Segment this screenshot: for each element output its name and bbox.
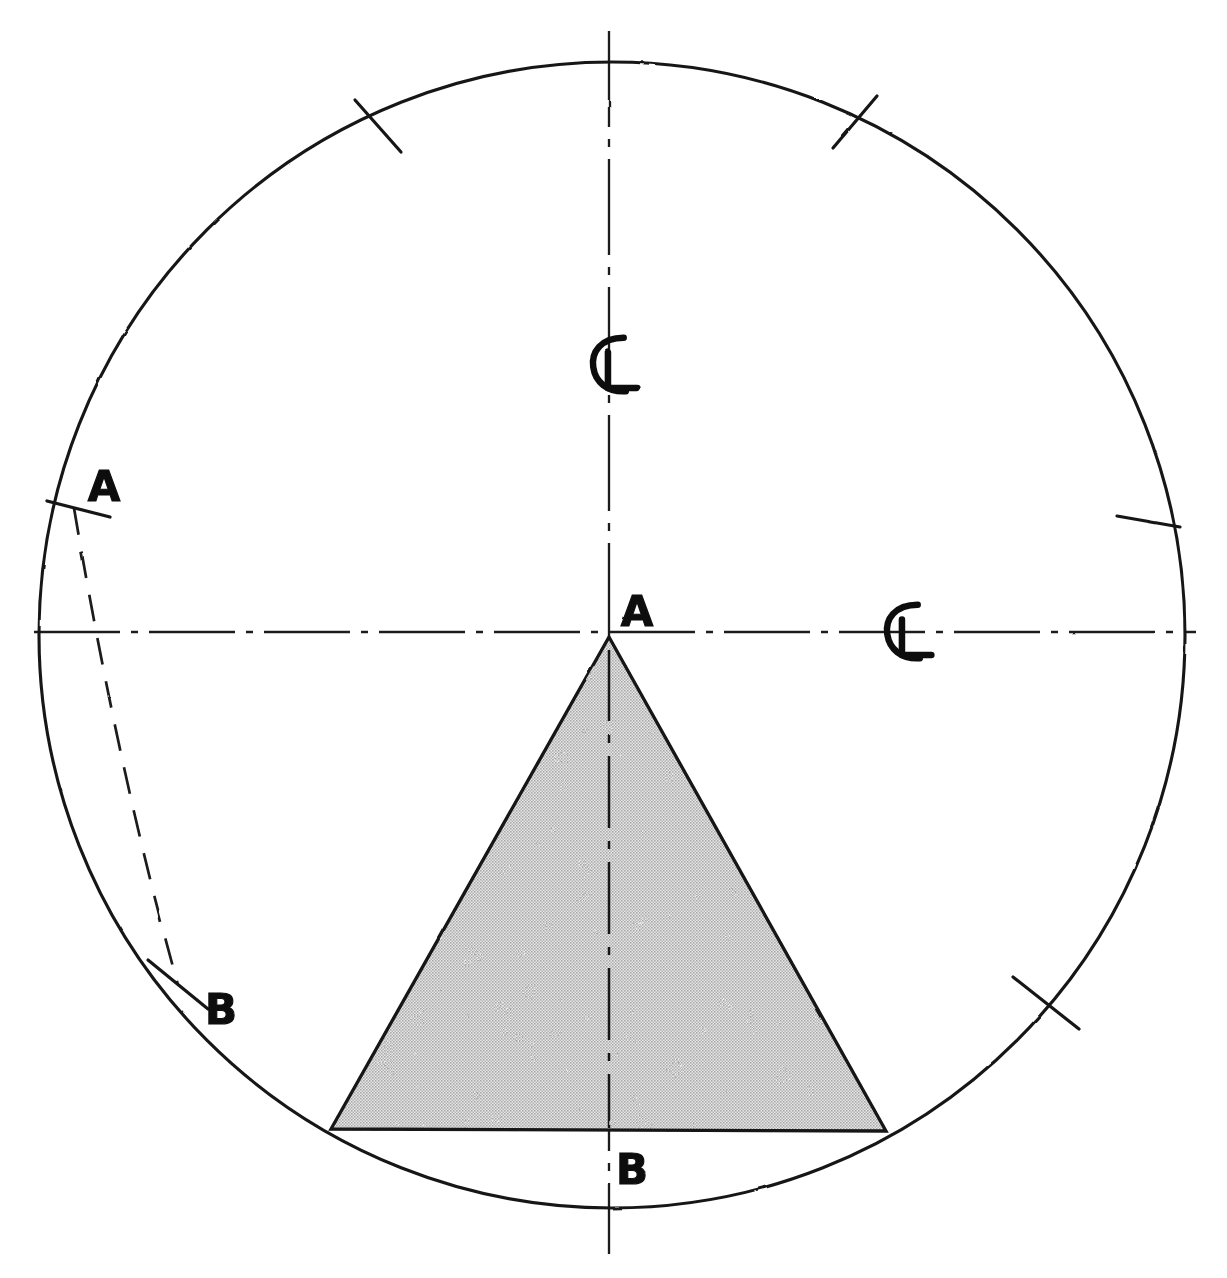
label-b-base: B — [616, 1145, 648, 1194]
label-a-left: A — [88, 462, 121, 511]
label-a-apex: A — [621, 587, 654, 636]
technical-drawing-canvas: A B A B — [0, 0, 1227, 1278]
label-b-left: B — [205, 985, 237, 1034]
